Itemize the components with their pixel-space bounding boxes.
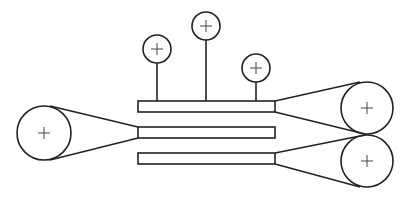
belt-left-upper — [50, 106, 138, 127]
belt-right-bottom-upper — [275, 135, 365, 153]
belt-right-top-lower — [275, 112, 365, 134]
pulley-belt-diagram — [0, 0, 410, 198]
belt-left-lower — [50, 138, 138, 160]
bar-top — [138, 101, 275, 112]
belt-right-bottom-lower — [275, 164, 360, 187]
bar-bottom — [138, 153, 275, 164]
bar-middle — [138, 127, 275, 138]
